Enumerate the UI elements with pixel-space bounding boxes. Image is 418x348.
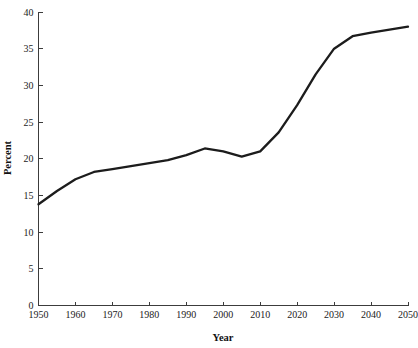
y-axis-title: Percent <box>2 140 13 175</box>
y-tick-label: 10 <box>24 227 34 238</box>
x-axis-title: Year <box>213 332 234 343</box>
x-tick-label: 2020 <box>287 309 307 320</box>
figure-container: 0510152025303540 19501960197019801990200… <box>0 0 418 348</box>
x-tick-label: 1980 <box>139 309 159 320</box>
x-tick-label: 2000 <box>213 309 233 320</box>
line-chart: 0510152025303540 19501960197019801990200… <box>0 0 418 348</box>
x-tick-label: 1960 <box>65 309 85 320</box>
y-tick-label: 15 <box>24 190 34 201</box>
x-tick-label: 2030 <box>324 309 344 320</box>
x-tick-label: 2040 <box>361 309 381 320</box>
x-tick-label: 1950 <box>29 309 49 320</box>
y-tick-label: 30 <box>24 80 34 91</box>
y-axis-ticks: 0510152025303540 <box>24 7 43 312</box>
x-tick-label: 2050 <box>398 309 418 320</box>
y-tick-label: 25 <box>24 117 34 128</box>
x-tick-label: 1990 <box>176 309 196 320</box>
x-axis-ticks: 1950196019701980199020002010202020302040… <box>29 302 418 320</box>
y-tick-label: 40 <box>24 7 34 18</box>
y-tick-label: 20 <box>24 153 34 164</box>
x-tick-label: 2010 <box>250 309 270 320</box>
x-tick-label: 1970 <box>102 309 122 320</box>
data-series-line <box>39 27 409 205</box>
y-tick-label: 5 <box>29 263 34 274</box>
y-tick-label: 35 <box>24 43 34 54</box>
